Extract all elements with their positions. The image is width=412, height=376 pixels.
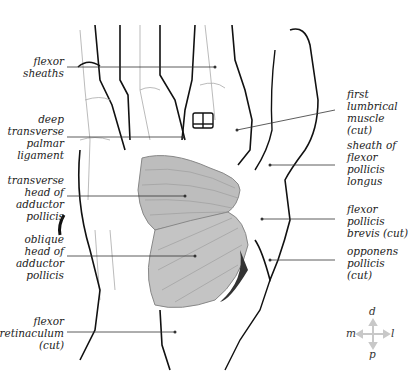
compass-medial: m [346, 327, 356, 339]
label-flexor-sheaths: flexor sheaths [23, 55, 64, 79]
label-oblique-head-adductor-pollicis: oblique head of adductor pollicis [16, 233, 64, 281]
label-first-lumbrical-muscle: first lumbrical muscle (cut) [347, 88, 398, 136]
compass-lateral: l [391, 327, 394, 339]
compass-dorsal: d [369, 305, 376, 317]
compass-palmar: p [369, 348, 376, 360]
orientation-compass [357, 320, 389, 348]
sheath-ring [78, 62, 100, 67]
label-flexor-retinaculum: flexor retinaculum (cut) [0, 315, 64, 351]
label-opponens-pollicis: opponens pollicis (cut) [347, 245, 398, 281]
label-transverse-head-adductor-pollicis: transverse head of adductor pollicis [8, 174, 64, 222]
finger-outlines [95, 25, 252, 165]
label-deep-transverse-palmar-ligament: deep transverse palmar ligament [8, 113, 64, 161]
cut-tendon-block [193, 113, 213, 128]
label-flexor-pollicis-brevis: flexor pollicis brevis (cut) [347, 203, 408, 239]
label-sheath-flexor-pollicis-longus: sheath of flexor pollicis longus [347, 139, 396, 187]
